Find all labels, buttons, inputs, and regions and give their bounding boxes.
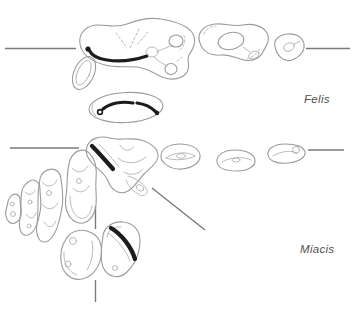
cusp-oval <box>282 41 295 52</box>
cusp-circle <box>77 179 82 184</box>
cusp-circle <box>47 191 52 196</box>
wear-facet-dashes <box>177 57 182 61</box>
felis-upper-molar-m1 <box>199 24 269 61</box>
tooth-comparison-figure: Felis <box>0 0 356 312</box>
cusp-oval <box>232 158 240 162</box>
tooth-outline <box>6 194 22 223</box>
tooth-outline <box>275 34 305 61</box>
figure-canvas: Felis <box>0 0 356 312</box>
shear-blade-front <box>103 102 133 109</box>
felis-upper-molar-m2 <box>275 34 305 61</box>
shear-blade <box>89 50 147 61</box>
cusp-line <box>158 46 173 51</box>
tooth-outline <box>199 24 269 61</box>
shear-blade <box>111 228 135 259</box>
cusp-circle <box>70 238 77 245</box>
central-basin <box>217 30 246 52</box>
cusp-line <box>294 41 300 44</box>
miacis-premolar-1 <box>6 194 22 223</box>
shear-blade-rear <box>137 103 156 112</box>
cusp-circle <box>11 212 16 217</box>
miacis-lower-molar-trigonid <box>101 222 140 277</box>
miacis-row: Miacis <box>6 137 344 302</box>
cusp-circle <box>28 200 32 204</box>
cusp-line <box>72 166 88 172</box>
wear-facet-dashes <box>130 29 139 48</box>
inner-ridge <box>64 252 77 275</box>
felis-canine <box>68 53 101 93</box>
cusp-line <box>42 203 58 209</box>
felis-label: Felis <box>304 93 330 105</box>
miacis-upper-molar-2 <box>217 150 255 171</box>
tooth-outline <box>61 230 102 279</box>
tooth-outline <box>101 222 140 277</box>
cusp-line <box>25 190 35 194</box>
miacis-upper-molar-1 <box>161 144 200 169</box>
cusp-circle <box>113 266 118 271</box>
inner-ridge <box>70 196 92 218</box>
blade-parallel-line <box>108 233 130 261</box>
felis-lower-carnassial-m1 <box>88 91 163 125</box>
cusp-line <box>124 169 143 174</box>
cusp-line <box>154 57 167 66</box>
felis-upper-carnassial-p4 <box>80 18 195 79</box>
tooth-outline <box>86 137 158 193</box>
inner-ridge <box>73 58 95 87</box>
inner-ridge <box>92 104 96 116</box>
miacis-label: Miacis <box>300 243 334 255</box>
wear-facet-dashes <box>137 32 148 45</box>
cusp-line <box>42 180 57 186</box>
cusp-line <box>26 213 36 218</box>
cusp-line <box>118 157 146 163</box>
blade-anterior-dot <box>98 110 103 115</box>
cusp-circle <box>169 35 183 47</box>
cusp-circle <box>10 202 14 206</box>
tooth-outline <box>65 150 96 223</box>
cusp-circle <box>146 47 158 57</box>
cusp-line <box>120 145 134 150</box>
crease-line <box>87 241 93 270</box>
cusp-line <box>243 47 250 52</box>
cusp-line <box>44 221 56 227</box>
cusp-line <box>73 186 89 192</box>
miacis-upper-molar-3 <box>268 144 305 163</box>
cusp-circle <box>165 64 177 75</box>
tooth-outline <box>268 144 305 163</box>
miacis-lower-molar-talonid <box>61 230 102 279</box>
cusp-oval <box>177 154 186 158</box>
miacis-upper-carnassial <box>86 137 158 196</box>
cusp-circle <box>27 224 31 228</box>
tooth-outline <box>217 150 255 171</box>
miacis-premolar-4 <box>65 150 96 223</box>
blade-posterior-dot <box>155 111 159 115</box>
tooth-outline <box>68 53 101 93</box>
miacis-diagonal-line <box>152 188 205 230</box>
wear-facet-dashes <box>116 33 127 48</box>
felis-row: Felis <box>5 18 350 124</box>
